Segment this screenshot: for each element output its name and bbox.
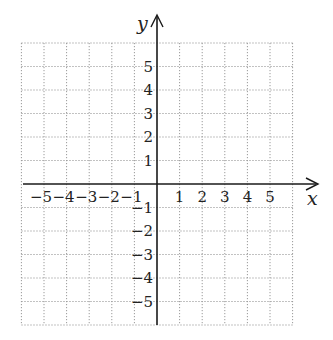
y-tick-label: 5 [143, 58, 153, 76]
y-tick-label: 1 [143, 152, 153, 170]
x-axis-label: x [307, 187, 318, 209]
x-tick-label: 2 [197, 188, 207, 206]
y-axis-label: y [136, 12, 148, 34]
y-tick-label: −3 [131, 246, 153, 264]
y-tick-label: 3 [143, 105, 153, 123]
y-tick-label: 4 [143, 81, 153, 99]
y-tick-label: −2 [131, 222, 153, 240]
y-tick-label: −5 [131, 293, 153, 311]
x-tick-label: −2 [98, 188, 120, 206]
x-tick-label: −3 [75, 188, 97, 206]
x-tick-label: 1 [175, 188, 185, 206]
x-tick-label: 4 [243, 188, 253, 206]
y-tick-label: −4 [131, 269, 153, 287]
x-tick-label: 5 [265, 188, 275, 206]
y-tick-label: −1 [131, 199, 153, 217]
x-tick-label: −5 [30, 188, 52, 206]
coordinate-plane: −5−4−3−2−11234554321−1−2−3−4−5 x y [0, 0, 333, 340]
y-tick-label: 2 [143, 128, 153, 146]
x-tick-label: −4 [53, 188, 75, 206]
x-tick-label: 3 [220, 188, 230, 206]
